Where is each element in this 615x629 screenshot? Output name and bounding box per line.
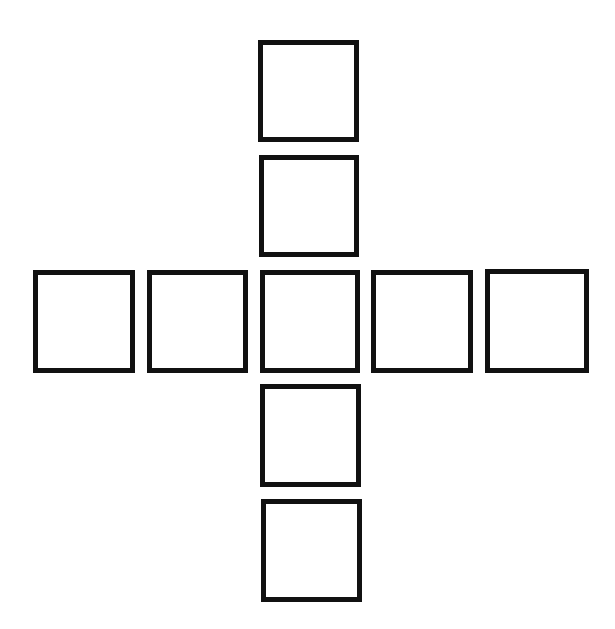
square-right-1 bbox=[371, 270, 473, 373]
square-left-1 bbox=[147, 270, 248, 373]
square-bottom-1 bbox=[260, 384, 361, 487]
cross-diagram bbox=[0, 0, 615, 629]
square-bottom-2 bbox=[261, 499, 362, 602]
square-left-2 bbox=[33, 270, 135, 373]
square-center bbox=[260, 270, 360, 373]
square-top-1 bbox=[258, 40, 359, 142]
square-right-2 bbox=[485, 269, 589, 373]
square-top-2 bbox=[259, 155, 359, 257]
